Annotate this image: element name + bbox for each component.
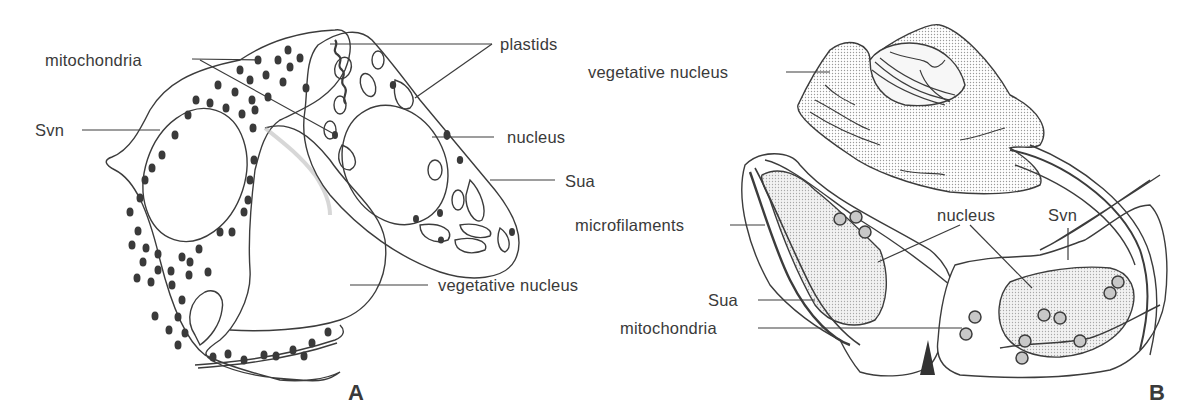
label-vegetative-nucleus-a: vegetative nucleus (438, 277, 578, 294)
label-plastids-a: plastids (500, 36, 558, 53)
vegetative-nucleus-b (798, 25, 1044, 194)
sperm-cell-sua (304, 32, 519, 278)
sperm-cell-svn (106, 30, 350, 381)
label-svn-a: Svn (35, 122, 64, 139)
vegetative-nucleus-shape (195, 126, 386, 368)
label-vegetative-nucleus-b: vegetative nucleus (588, 64, 728, 81)
label-svn-b: Svn (1048, 207, 1077, 224)
label-nucleus-b: nucleus (937, 207, 995, 224)
panel-letter-b: B (1149, 382, 1165, 404)
label-mitochondria-b: mitochondria (620, 320, 717, 337)
label-sua-b: Sua (708, 292, 738, 309)
label-sua-a: Sua (565, 173, 595, 190)
sperm-cell-sua-b (742, 154, 954, 376)
panel-letter-a: A (348, 382, 364, 404)
mitochondria-dots-a (127, 46, 516, 365)
label-microfilaments-b: microfilaments (575, 217, 684, 234)
label-mitochondria-a: mitochondria (45, 52, 142, 69)
figure: mitochondria plastids Svn nucleus Sua ve… (0, 0, 1196, 420)
label-nucleus-a: nucleus (507, 129, 565, 146)
